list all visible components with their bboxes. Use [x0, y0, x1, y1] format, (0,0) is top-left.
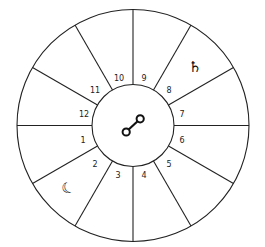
house-number-7: 7 — [179, 110, 184, 119]
house-divider — [169, 146, 234, 184]
opposition-icon — [123, 115, 144, 135]
house-divider — [75, 161, 113, 226]
house-number-12: 12 — [79, 110, 89, 119]
house-number-9: 9 — [141, 74, 146, 83]
house-number-4: 4 — [141, 171, 146, 180]
house-number-8: 8 — [166, 86, 171, 95]
saturn-icon: ♄ — [188, 58, 201, 76]
house-divider — [154, 25, 192, 90]
house-number-3: 3 — [115, 171, 120, 180]
moon-icon: ☾ — [59, 177, 78, 199]
house-number-2: 2 — [92, 160, 97, 169]
house-divider — [33, 146, 98, 184]
house-number-11: 11 — [90, 86, 100, 95]
house-divider — [33, 68, 98, 106]
house-number-10: 10 — [114, 74, 124, 83]
house-number-5: 5 — [166, 160, 171, 169]
house-number-1: 1 — [80, 136, 85, 145]
house-divider — [154, 161, 192, 226]
house-number-6: 6 — [179, 136, 184, 145]
house-wheel: 1 2 3 4 5 6 7 8 9 10 11 12 ♄ ☾ — [0, 0, 265, 247]
house-divider — [75, 25, 113, 90]
